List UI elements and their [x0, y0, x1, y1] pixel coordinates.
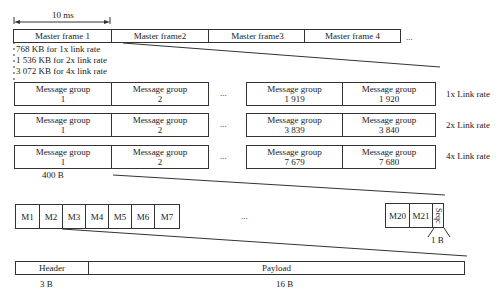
frame-size-1x: 768 KB for 1x link rate: [16, 44, 100, 55]
message-group-cell: Message group2: [112, 83, 208, 105]
master-frame-label: Master frame 4: [325, 31, 380, 41]
master-frame-label: Master frame2: [134, 31, 187, 41]
duration-label: 10 ms: [52, 10, 74, 21]
row-ellipsis: ...: [220, 119, 227, 129]
message-group-row-2x-right: Message group3 839 Message group3 840: [246, 113, 436, 137]
master-frame-label: Master frame3: [231, 31, 284, 41]
message-group-row-4x-right: Message group7 679 Message group7 680: [246, 145, 436, 169]
row-ellipsis: ...: [220, 88, 227, 98]
message-group-cell: Message group3 840: [343, 114, 435, 136]
master-frame-bar: Master frame 1 Master frame2 Master fram…: [13, 29, 305, 43]
message-group-cell: Message group7 680: [343, 146, 435, 168]
message-cell: M7: [155, 205, 179, 228]
message-group-cell: Message group3 839: [247, 114, 343, 136]
frame-size-4x: 3 072 KB for 4x link rate: [16, 66, 107, 77]
message-group-cell: Message group2: [112, 114, 208, 136]
message-group-cell: Message group1 920: [343, 83, 435, 105]
message-group-row-1x-right: Message group1 919 Message group1 920: [246, 82, 436, 106]
rate-label-1x: 1x Link rate: [446, 89, 490, 100]
row-ellipsis: ...: [220, 151, 227, 161]
message-group-cell: Message group2: [112, 146, 208, 168]
messages-row-right: M20 M21 Seqc: [385, 203, 444, 228]
message-cell: M2: [40, 205, 63, 228]
message-cell: M3: [63, 205, 86, 228]
master-frame-2: Master frame2: [112, 30, 209, 42]
header-size-label: 3 B: [40, 279, 53, 290]
sequence-cell: Seqc: [433, 204, 443, 227]
message-structure-bar: Header Payload: [15, 261, 465, 275]
frame-size-2x: 1 536 KB for 2x link rate: [16, 55, 107, 66]
payload-cell: Payload: [89, 262, 464, 274]
message-cell: M20: [386, 204, 410, 227]
message-group-cell: Message group1 919: [247, 83, 343, 105]
rate-label-2x: 2x Link rate: [446, 120, 490, 131]
rate-label-4x: 4x Link rate: [446, 151, 490, 162]
message-cell: M1: [16, 205, 40, 228]
message-group-row-2x-left: Message group1 Message group2: [14, 113, 209, 137]
message-cell: M5: [109, 205, 132, 228]
messages-row-left: M1 M2 M3 M4 M5 M6 M7: [15, 204, 180, 229]
header-cell: Header: [16, 262, 89, 274]
message-cell: M4: [86, 205, 109, 228]
message-group-row-1x-left: Message group1 Message group2: [14, 82, 209, 106]
master-frame-3: Master frame3: [209, 30, 306, 42]
message-group-row-4x-left: Message group1 Message group2: [14, 145, 209, 169]
message-cell: M21: [410, 204, 433, 227]
master-frame-ellipsis: ...: [406, 32, 413, 42]
message-group-cell: Message group1: [15, 83, 112, 105]
master-frame-1: Master frame 1: [14, 30, 112, 42]
master-frame-4: Master frame 4: [304, 29, 401, 43]
message-group-size-label: 400 B: [42, 170, 64, 181]
messages-ellipsis: ...: [241, 211, 248, 221]
message-group-cell: Message group1: [15, 146, 112, 168]
sequence-size-label: 1 B: [431, 235, 444, 246]
master-frame-label: Master frame 1: [35, 31, 90, 41]
message-group-cell: Message group7 679: [247, 146, 343, 168]
message-cell: M6: [132, 205, 155, 228]
payload-size-label: 16 B: [276, 279, 293, 290]
message-group-cell: Message group1: [15, 114, 112, 136]
